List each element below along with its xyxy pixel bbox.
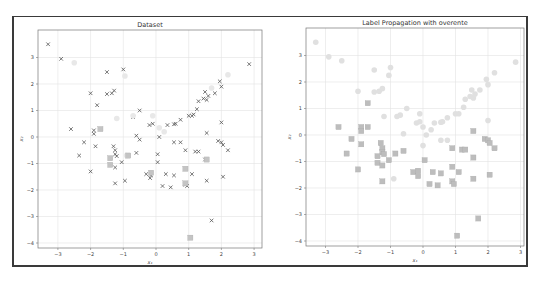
square-marker	[148, 170, 153, 175]
chart-panel-1: −3−2−10123−4−3−2−10123Datasetx₁x₂	[18, 21, 262, 265]
circle-marker	[371, 89, 377, 95]
square-marker	[380, 163, 385, 168]
square-marker	[471, 155, 476, 160]
x-tick-label: −1	[387, 249, 394, 255]
square-marker	[430, 170, 435, 175]
circle-marker	[513, 59, 519, 65]
circle-marker	[161, 129, 167, 135]
circle-marker	[388, 65, 394, 71]
chart-panel-2: −3−2−10123−4−3−2−10123Label Propagation …	[286, 19, 524, 263]
y-tick-label: 2	[31, 81, 34, 87]
circle-marker	[462, 96, 468, 102]
square-marker	[487, 172, 492, 177]
circle-marker	[209, 85, 215, 91]
circle-marker	[156, 125, 162, 131]
square-marker	[359, 142, 364, 147]
y-tick-label: −4	[295, 238, 302, 244]
circle-marker	[313, 39, 319, 45]
square-marker	[381, 151, 386, 156]
square-marker	[108, 162, 113, 167]
square-marker	[492, 146, 497, 151]
square-marker	[427, 181, 432, 186]
square-marker	[108, 156, 113, 161]
x-axis-label: x₁	[412, 257, 418, 263]
square-marker	[349, 136, 354, 141]
square-marker	[463, 147, 468, 152]
circle-marker	[122, 73, 128, 79]
square-marker	[438, 171, 443, 176]
y-tick-label: 0	[31, 134, 34, 140]
square-marker	[411, 170, 416, 175]
y-tick-label: −4	[27, 240, 34, 246]
x-tick-label: 3	[519, 249, 522, 255]
circle-marker	[150, 113, 156, 119]
y-tick-label: 1	[299, 105, 302, 111]
square-marker	[344, 151, 349, 156]
square-marker	[365, 101, 370, 106]
x-tick-label: 0	[154, 251, 157, 257]
y-tick-label: 3	[299, 52, 302, 58]
square-marker	[476, 216, 481, 221]
x-tick-label: 3	[253, 251, 256, 257]
square-marker	[450, 146, 455, 151]
square-marker	[401, 148, 406, 153]
y-tick-label: −3	[27, 213, 34, 219]
square-marker	[487, 140, 492, 145]
y-axis-label: x₂	[18, 137, 24, 143]
x-tick-label: −3	[322, 249, 329, 255]
circle-marker	[445, 115, 451, 121]
y-tick-label: 3	[31, 54, 34, 60]
square-marker	[456, 170, 461, 175]
circle-marker	[371, 67, 377, 73]
square-marker	[188, 235, 193, 240]
y-tick-label: 2	[299, 79, 302, 85]
x-tick-label: −3	[54, 251, 61, 257]
square-marker	[378, 140, 383, 145]
square-marker	[451, 181, 456, 186]
circle-marker	[391, 176, 397, 182]
x-tick-label: 2	[486, 249, 489, 255]
circle-marker	[394, 114, 400, 120]
circle-marker	[423, 132, 429, 138]
circle-marker	[477, 87, 483, 93]
y-axis-label: x₂	[286, 135, 292, 141]
y-tick-label: −2	[295, 185, 302, 191]
square-marker	[375, 154, 380, 159]
circle-marker	[445, 138, 451, 144]
square-marker	[450, 164, 455, 169]
circle-marker	[428, 127, 434, 133]
square-marker	[435, 183, 440, 188]
square-marker	[183, 181, 188, 186]
x-tick-label: 0	[421, 249, 424, 255]
circle-marker	[492, 70, 498, 76]
y-tick-label: −2	[27, 187, 34, 193]
square-marker	[336, 124, 341, 129]
circle-marker	[404, 106, 410, 112]
y-tick-label: 0	[299, 132, 302, 138]
x-tick-label: −2	[354, 249, 361, 255]
chart-title: Label Propagation with overente	[362, 19, 468, 27]
circle-marker	[484, 77, 490, 83]
square-marker	[471, 128, 476, 133]
x-tick-label: −2	[87, 251, 94, 257]
circle-marker	[114, 116, 120, 122]
square-marker	[98, 126, 103, 131]
circle-marker	[438, 138, 444, 144]
square-marker	[393, 151, 398, 156]
x-tick-label: 2	[220, 251, 223, 257]
circle-marker	[417, 119, 423, 125]
square-marker	[416, 173, 421, 178]
square-marker	[365, 124, 370, 129]
figure: −3−2−10123−4−3−2−10123Datasetx₁x₂−3−2−10…	[0, 0, 541, 285]
x-tick-label: 1	[454, 249, 457, 255]
circle-marker	[461, 104, 467, 110]
y-tick-label: −3	[295, 211, 302, 217]
circle-marker	[420, 124, 426, 130]
square-marker	[471, 176, 476, 181]
square-marker	[380, 179, 385, 184]
square-marker	[359, 128, 364, 133]
square-marker	[386, 158, 391, 163]
circle-marker	[380, 86, 386, 92]
square-marker	[416, 168, 421, 173]
y-tick-label: 1	[31, 107, 34, 113]
